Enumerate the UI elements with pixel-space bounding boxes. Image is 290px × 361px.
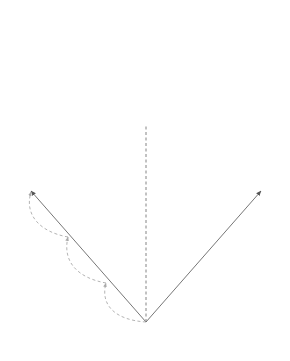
koch-similarity-diagram <box>0 0 290 361</box>
center-of-similarity-label <box>139 323 144 338</box>
dashed-arc-3 <box>29 192 68 237</box>
left-ray-arrow <box>31 191 146 322</box>
dashed-arc-2 <box>67 237 106 283</box>
dashed-arc-1 <box>105 283 146 322</box>
similarity-figure <box>29 125 261 322</box>
right-ray-arrow <box>146 191 261 322</box>
